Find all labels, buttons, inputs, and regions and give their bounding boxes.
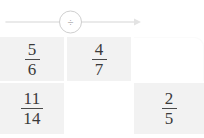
fraction-denominator: 7 — [93, 60, 106, 78]
fraction-numerator: 5 — [26, 41, 39, 59]
fraction-value: 5 6 — [25, 41, 40, 78]
division-sign-icon: ÷ — [67, 16, 73, 28]
empty-cell[interactable] — [134, 37, 204, 83]
fraction-denominator: 5 — [163, 109, 176, 127]
fraction-value: 11 14 — [21, 90, 42, 127]
fraction-value — [167, 58, 171, 60]
fraction-numerator: 2 — [163, 90, 176, 108]
fraction-numerator: 4 — [93, 41, 106, 59]
operation-arrow: ÷ — [0, 0, 204, 37]
empty-cell[interactable] — [67, 83, 134, 134]
fraction-value: 2 5 — [162, 90, 177, 127]
fraction-denominator — [97, 109, 101, 110]
fraction-numerator: 11 — [22, 90, 43, 108]
fraction-cell[interactable]: 4 7 — [67, 37, 134, 83]
fraction-cell[interactable]: 2 5 — [134, 83, 204, 134]
fraction-denominator — [167, 59, 171, 60]
fraction-grid: 5 6 4 7 11 14 2 5 — [0, 37, 204, 134]
fraction-value — [97, 108, 101, 110]
arrow-head-icon — [134, 19, 141, 26]
fraction-cell[interactable]: 5 6 — [0, 37, 67, 83]
fraction-denominator: 6 — [26, 60, 39, 78]
fraction-value: 4 7 — [92, 41, 107, 78]
fraction-denominator: 14 — [21, 109, 42, 127]
fraction-cell[interactable]: 11 14 — [0, 83, 67, 134]
